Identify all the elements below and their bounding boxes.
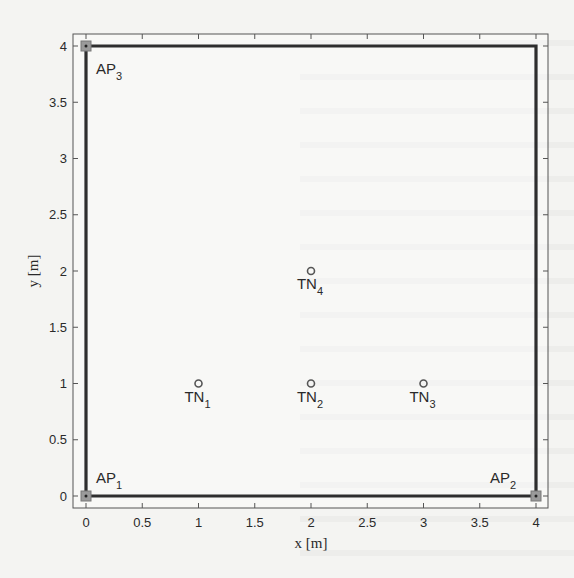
y-tick-label: 2.5 <box>49 207 67 222</box>
x-tick-label: 3.5 <box>471 515 489 530</box>
y-tick-label: 1.5 <box>49 320 67 335</box>
ap1-marker-dot <box>85 495 88 498</box>
axes-frame <box>73 34 548 508</box>
y-tick-label: 0.5 <box>49 432 67 447</box>
x-tick-label: 0 <box>82 515 89 530</box>
y-tick-label: 3 <box>60 151 67 166</box>
x-tick-label: 1.5 <box>246 515 264 530</box>
x-tick-label: 1 <box>195 515 202 530</box>
y-tick-label: 4 <box>60 39 67 54</box>
y-axis-label: y [m] <box>25 255 41 288</box>
x-tick-label: 2 <box>307 515 314 530</box>
y-tick-label: 0 <box>60 489 67 504</box>
x-tick-label: 0.5 <box>133 515 151 530</box>
y-tick-label: 3.5 <box>49 95 67 110</box>
bleed-through-text <box>300 550 574 556</box>
ap3-marker-dot <box>85 45 88 48</box>
floor-plan-chart: 00.511.522.533.54 00.511.522.533.54 AP1A… <box>0 0 574 578</box>
ap2-marker-dot <box>535 495 538 498</box>
x-tick-label: 2.5 <box>358 515 376 530</box>
x-tick-label: 3 <box>420 515 427 530</box>
x-tick-label: 4 <box>532 515 539 530</box>
y-tick-label: 1 <box>60 376 67 391</box>
x-axis-label: x [m] <box>295 535 328 551</box>
y-tick-label: 2 <box>60 264 67 279</box>
